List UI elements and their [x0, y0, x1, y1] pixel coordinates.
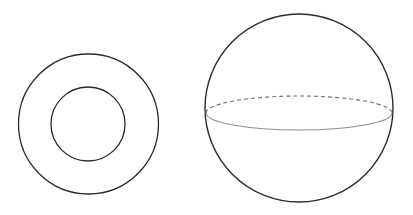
canvas-background: [0, 0, 413, 215]
geometry-illustration: [0, 0, 413, 215]
figure-canvas: [0, 0, 413, 215]
